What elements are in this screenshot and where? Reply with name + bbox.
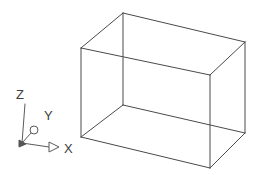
box-edge-bottom-front [81,137,210,168]
drawing-viewport[interactable]: Z Y X [0,0,264,175]
x-axis-arrowhead-icon [49,142,59,152]
box-edge-top-front [81,48,210,75]
y-axis-label: Y [44,108,53,123]
wireframe-box-group[interactable] [81,13,245,168]
box-edge-top-right [210,42,245,75]
box-edge-bottom-left [81,105,123,137]
y-axis-circle-marker [30,126,38,134]
y-axis-line [22,133,31,143]
box-edge-top-left [81,13,123,48]
z-axis-line [22,104,25,143]
box-edge-top-back [123,13,245,42]
wireframe-canvas[interactable]: Z Y X [0,0,264,175]
z-axis-label: Z [16,87,24,102]
ucs-icon-group[interactable]: Z Y X [16,87,73,156]
x-axis-label: X [64,141,73,156]
box-edge-bottom-back [123,105,245,133]
box-edge-bottom-right [210,133,245,168]
